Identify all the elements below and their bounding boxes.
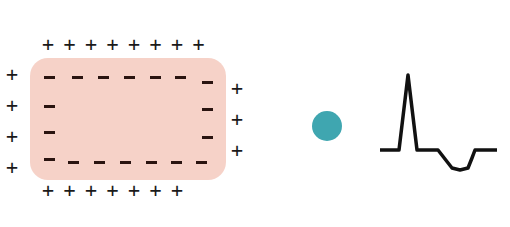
- ecg-waveform: [380, 75, 497, 170]
- polarization-diagram: ++++++++++++++++++++++: [0, 0, 510, 227]
- ecg-trace: [0, 0, 510, 227]
